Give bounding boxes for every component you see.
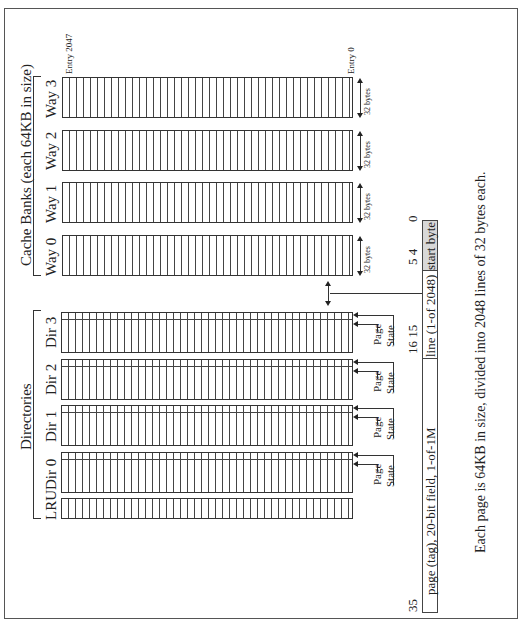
dir-3-page-label: Page <box>371 324 383 345</box>
cache-banks-title: Cache Banks (each 64KB in size) <box>18 64 35 266</box>
start-byte-field: start byte <box>422 220 438 271</box>
bits-5-4-label: 5 4 <box>405 249 421 265</box>
bit-0-label: 0 <box>405 216 421 223</box>
entry-0-label: Entry 0 <box>346 47 356 74</box>
dir-1-page-label: Page <box>371 417 383 438</box>
dir-2-block <box>61 359 353 400</box>
dir-2-page-label: Page <box>371 371 383 392</box>
way-0-bank <box>62 235 353 276</box>
way-1-label: Way 1 <box>43 185 60 223</box>
way-2-label: Way 2 <box>43 132 60 170</box>
way-0-size-label: 32 bytes <box>363 246 372 273</box>
dir-2-label: Dir 2 <box>43 364 60 395</box>
caption: Each page is 64KB in size, divided into … <box>473 172 489 553</box>
way-2-size-label: 32 bytes <box>363 141 372 168</box>
way-0-label: Way 0 <box>43 238 60 276</box>
entry-2047-label: Entry 2047 <box>64 34 74 74</box>
way-1-bank <box>62 182 353 223</box>
way-3-size-label: 32 bytes <box>363 88 372 115</box>
dir-0-block <box>61 452 353 493</box>
line-index-field: line (1-of 2048) <box>422 270 438 359</box>
page-tag-field: page (tag), 20-bit field, 1-of-1M <box>422 358 438 613</box>
dir-0-label: Dir 0 <box>43 459 60 490</box>
dir-1-block <box>61 405 353 446</box>
bits-16-15-label: 16 15 <box>405 325 421 354</box>
way-3-bank <box>62 77 353 118</box>
way-1-size-label: 32 bytes <box>363 193 372 220</box>
dir-1-state-label: State <box>384 418 396 440</box>
dir-3-block <box>61 312 353 353</box>
lru-block <box>61 498 353 519</box>
lru-label: LRU <box>43 490 60 520</box>
way-2-bank <box>62 130 353 171</box>
dir-0-page-label: Page <box>371 464 383 485</box>
dir-3-label: Dir 3 <box>43 317 60 348</box>
directories-title: Directories <box>18 383 35 450</box>
bit-35-label: 35 <box>405 599 421 612</box>
way-3-label: Way 3 <box>43 80 60 118</box>
dir-1-label: Dir 1 <box>43 411 60 442</box>
dir-2-state-label: State <box>384 372 396 394</box>
dir-0-state-label: State <box>384 465 396 487</box>
dir-3-state-label: State <box>384 325 396 347</box>
